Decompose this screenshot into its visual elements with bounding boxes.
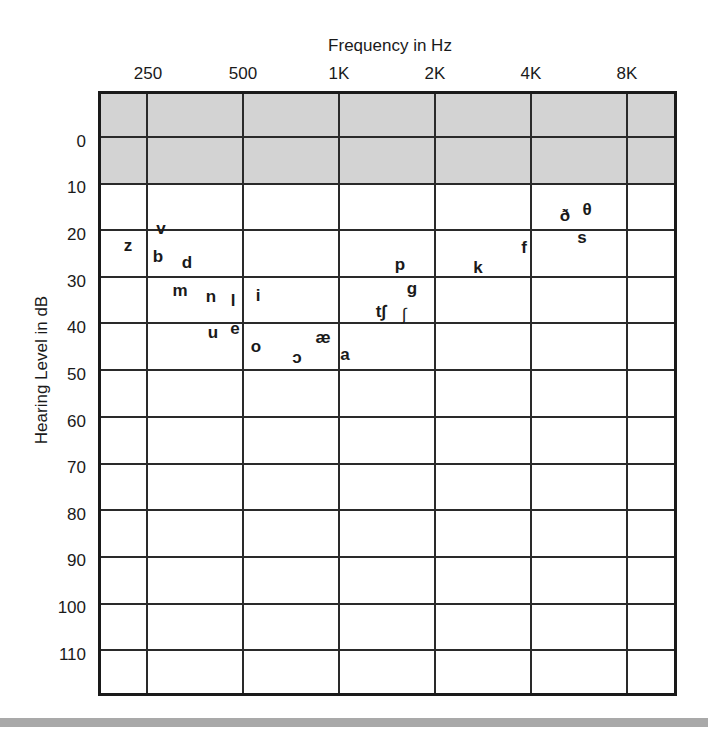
page-divider-bar	[0, 718, 708, 727]
phoneme-s: s	[577, 229, 586, 246]
y-tick-100: 100	[36, 598, 86, 618]
y-tick-60: 60	[36, 412, 86, 432]
y-tick-20: 20	[36, 225, 86, 245]
phoneme-k: k	[473, 259, 482, 276]
phoneme-a: a	[340, 346, 349, 363]
x-tick-1k: 1K	[309, 64, 369, 84]
phoneme-d: d	[182, 254, 192, 271]
x-tick-4k: 4K	[501, 64, 561, 84]
phoneme-o: o	[251, 338, 261, 355]
plot-frame	[98, 91, 677, 696]
phoneme-p: p	[395, 256, 405, 273]
phoneme-l: l	[231, 292, 236, 309]
phoneme-sh: ∫	[402, 306, 407, 323]
phoneme-u: u	[208, 324, 218, 341]
phoneme-v: v	[156, 220, 165, 237]
phoneme-open-o: ɔ	[292, 349, 301, 366]
phoneme-ae: æ	[315, 329, 330, 346]
phoneme-f: f	[521, 239, 527, 256]
x-axis-title: Frequency in Hz	[290, 36, 490, 56]
phoneme-n: n	[206, 288, 216, 305]
phoneme-i: i	[256, 287, 261, 304]
phoneme-z: z	[124, 237, 133, 254]
phoneme-g: g	[407, 280, 417, 297]
x-tick-250: 250	[118, 64, 178, 84]
phoneme-eth: ð	[560, 207, 570, 224]
y-tick-40: 40	[36, 318, 86, 338]
y-tick-30: 30	[36, 272, 86, 292]
y-tick-0: 0	[36, 132, 86, 152]
x-tick-8k: 8K	[597, 64, 657, 84]
phoneme-tsh: t∫	[376, 303, 386, 320]
x-tick-500: 500	[213, 64, 273, 84]
y-tick-50: 50	[36, 365, 86, 385]
phoneme-m: m	[172, 282, 187, 299]
y-tick-90: 90	[36, 551, 86, 571]
y-tick-80: 80	[36, 505, 86, 525]
y-tick-70: 70	[36, 458, 86, 478]
y-tick-10: 10	[36, 178, 86, 198]
phoneme-e: e	[230, 320, 239, 337]
x-tick-2k: 2K	[405, 64, 465, 84]
y-tick-110: 110	[36, 645, 86, 665]
phoneme-theta: θ	[582, 201, 591, 218]
phoneme-b: b	[153, 248, 163, 265]
